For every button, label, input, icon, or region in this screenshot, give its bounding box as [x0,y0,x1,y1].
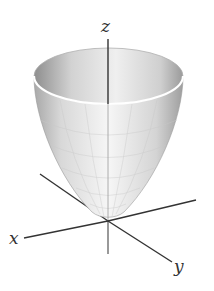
x-axis-label: x [9,230,19,247]
y-axis-label: y [174,258,184,275]
y-axis-positive [108,221,172,262]
z-axis-label: z [101,18,110,35]
paraboloid-diagram [0,0,214,291]
x-axis-positive [24,221,108,238]
paraboloid-figure: z x y [0,0,214,291]
